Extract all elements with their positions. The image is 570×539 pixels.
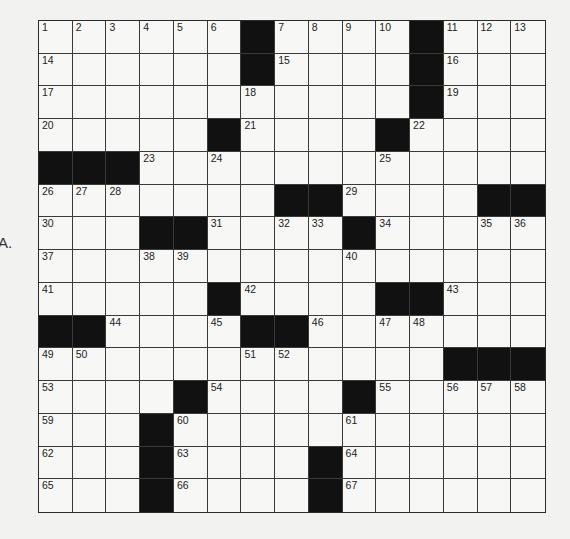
grid-cell[interactable] <box>410 414 444 447</box>
grid-cell[interactable]: 17 <box>39 86 73 119</box>
grid-cell[interactable]: 28 <box>106 185 140 218</box>
grid-cell[interactable]: 55 <box>376 381 410 414</box>
grid-cell[interactable]: 67 <box>343 479 377 512</box>
grid-cell[interactable] <box>241 447 275 480</box>
grid-cell[interactable]: 51 <box>241 348 275 381</box>
grid-cell[interactable] <box>478 414 512 447</box>
grid-cell[interactable] <box>478 447 512 480</box>
grid-cell[interactable]: 10 <box>376 21 410 54</box>
grid-cell[interactable] <box>410 152 444 185</box>
grid-cell[interactable] <box>511 447 545 480</box>
grid-cell[interactable] <box>444 217 478 250</box>
grid-cell[interactable] <box>309 152 343 185</box>
grid-cell[interactable] <box>410 447 444 480</box>
grid-cell[interactable] <box>444 447 478 480</box>
grid-cell[interactable] <box>309 414 343 447</box>
grid-cell[interactable]: 15 <box>275 54 309 87</box>
grid-cell[interactable] <box>174 119 208 152</box>
grid-cell[interactable] <box>73 54 107 87</box>
grid-cell[interactable]: 59 <box>39 414 73 447</box>
grid-cell[interactable]: 36 <box>511 217 545 250</box>
grid-cell[interactable] <box>140 381 174 414</box>
grid-cell[interactable] <box>73 119 107 152</box>
grid-cell[interactable]: 62 <box>39 447 73 480</box>
grid-cell[interactable]: 63 <box>174 447 208 480</box>
grid-cell[interactable] <box>444 119 478 152</box>
grid-cell[interactable] <box>73 250 107 283</box>
grid-cell[interactable] <box>208 86 242 119</box>
grid-cell[interactable]: 13 <box>511 21 545 54</box>
grid-cell[interactable] <box>241 414 275 447</box>
grid-cell[interactable]: 9 <box>343 21 377 54</box>
grid-cell[interactable] <box>376 348 410 381</box>
grid-cell[interactable]: 64 <box>343 447 377 480</box>
grid-cell[interactable]: 32 <box>275 217 309 250</box>
grid-cell[interactable]: 43 <box>444 283 478 316</box>
grid-cell[interactable]: 33 <box>309 217 343 250</box>
grid-cell[interactable]: 38 <box>140 250 174 283</box>
grid-cell[interactable]: 39 <box>174 250 208 283</box>
grid-cell[interactable] <box>410 250 444 283</box>
grid-cell[interactable] <box>275 283 309 316</box>
grid-cell[interactable] <box>140 316 174 349</box>
grid-cell[interactable] <box>410 348 444 381</box>
grid-cell[interactable] <box>73 86 107 119</box>
grid-cell[interactable] <box>511 316 545 349</box>
grid-cell[interactable] <box>478 250 512 283</box>
grid-cell[interactable] <box>241 479 275 512</box>
grid-cell[interactable]: 12 <box>478 21 512 54</box>
grid-cell[interactable] <box>511 86 545 119</box>
grid-cell[interactable]: 22 <box>410 119 444 152</box>
grid-cell[interactable]: 56 <box>444 381 478 414</box>
grid-cell[interactable] <box>376 479 410 512</box>
grid-cell[interactable] <box>511 479 545 512</box>
grid-cell[interactable] <box>511 54 545 87</box>
grid-cell[interactable]: 27 <box>73 185 107 218</box>
grid-cell[interactable] <box>106 217 140 250</box>
grid-cell[interactable] <box>343 152 377 185</box>
grid-cell[interactable] <box>73 381 107 414</box>
grid-cell[interactable] <box>106 86 140 119</box>
grid-cell[interactable]: 14 <box>39 54 73 87</box>
grid-cell[interactable]: 2 <box>73 21 107 54</box>
grid-cell[interactable] <box>140 283 174 316</box>
grid-cell[interactable]: 42 <box>241 283 275 316</box>
grid-cell[interactable] <box>241 381 275 414</box>
grid-cell[interactable]: 29 <box>343 185 377 218</box>
grid-cell[interactable]: 48 <box>410 316 444 349</box>
grid-cell[interactable]: 52 <box>275 348 309 381</box>
grid-cell[interactable] <box>208 479 242 512</box>
grid-cell[interactable]: 25 <box>376 152 410 185</box>
grid-cell[interactable] <box>376 86 410 119</box>
grid-cell[interactable] <box>174 86 208 119</box>
grid-cell[interactable] <box>106 348 140 381</box>
grid-cell[interactable] <box>275 479 309 512</box>
grid-cell[interactable]: 65 <box>39 479 73 512</box>
grid-cell[interactable]: 54 <box>208 381 242 414</box>
grid-cell[interactable] <box>376 54 410 87</box>
grid-cell[interactable] <box>208 54 242 87</box>
grid-cell[interactable] <box>140 86 174 119</box>
grid-cell[interactable]: 8 <box>309 21 343 54</box>
grid-cell[interactable] <box>410 479 444 512</box>
grid-cell[interactable] <box>444 479 478 512</box>
grid-cell[interactable]: 7 <box>275 21 309 54</box>
grid-cell[interactable] <box>275 381 309 414</box>
grid-cell[interactable]: 35 <box>478 217 512 250</box>
grid-cell[interactable] <box>511 250 545 283</box>
grid-cell[interactable] <box>478 54 512 87</box>
grid-cell[interactable] <box>275 447 309 480</box>
grid-cell[interactable] <box>275 152 309 185</box>
grid-cell[interactable] <box>73 414 107 447</box>
grid-cell[interactable] <box>309 283 343 316</box>
grid-cell[interactable]: 11 <box>444 21 478 54</box>
grid-cell[interactable] <box>174 185 208 218</box>
grid-cell[interactable] <box>444 185 478 218</box>
grid-cell[interactable] <box>241 217 275 250</box>
grid-cell[interactable] <box>478 283 512 316</box>
grid-cell[interactable] <box>343 348 377 381</box>
grid-cell[interactable] <box>73 283 107 316</box>
grid-cell[interactable]: 34 <box>376 217 410 250</box>
grid-cell[interactable] <box>309 381 343 414</box>
grid-cell[interactable] <box>376 185 410 218</box>
